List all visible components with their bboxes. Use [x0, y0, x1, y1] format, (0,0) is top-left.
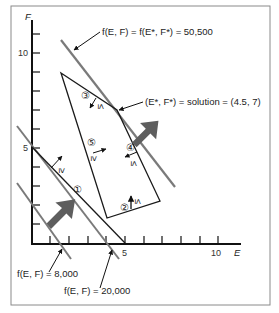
isoline-8000: [17, 183, 71, 259]
constraint-1-label: ①: [73, 184, 82, 195]
constraint-3-label: ③: [81, 90, 90, 101]
constraint-5-label: ⑤: [87, 137, 96, 148]
y-tick-5: 5: [23, 143, 28, 153]
x-tick-5: 5: [122, 248, 127, 258]
solution-label: (E*, F*) = solution = (4.5, 7): [145, 96, 261, 107]
feasible-region: [61, 73, 160, 218]
constraint-5-arrow: [93, 149, 106, 153]
lp-diagram: F E 10 5 5 10 ≥ ① ≥ ⑤ ≤ ③ ≤ ④ ≤ ② f(E, F…: [0, 0, 279, 313]
iso-8000-label: f(E, F) = 8,000: [17, 268, 78, 279]
constraint-2-label: ②: [120, 202, 129, 213]
iso-20000-label: f(E, F) = 20,000: [64, 285, 130, 296]
y-tick-10: 10: [18, 48, 28, 58]
x-axis-label: E: [234, 247, 241, 258]
x-tick-10: 10: [211, 248, 221, 258]
optimal-line-pointer: [74, 32, 100, 50]
constraint-4-sign: ≤: [129, 161, 140, 166]
constraint-3-sign: ≤: [96, 104, 107, 109]
y-axis-label: F: [25, 11, 32, 22]
constraint-5-sign: ≥: [89, 156, 100, 161]
objective-direction-arrow-upper: [132, 121, 158, 147]
figure-frame: [11, 6, 270, 305]
constraint-2-sign: ≤: [133, 199, 144, 204]
constraint-1-line: [32, 147, 125, 243]
iso-20000-pointer: [100, 250, 112, 288]
objective-direction-arrow-lower: [47, 199, 76, 229]
optimal-line-label: f(E, F) = f(E*, F*) = 50,500: [102, 26, 213, 37]
constraint-1-arrow: [51, 156, 62, 168]
constraint-1-sign: ≥: [57, 168, 68, 173]
constraint-3-arrow: [90, 98, 96, 108]
solution-pointer: [119, 102, 143, 110]
